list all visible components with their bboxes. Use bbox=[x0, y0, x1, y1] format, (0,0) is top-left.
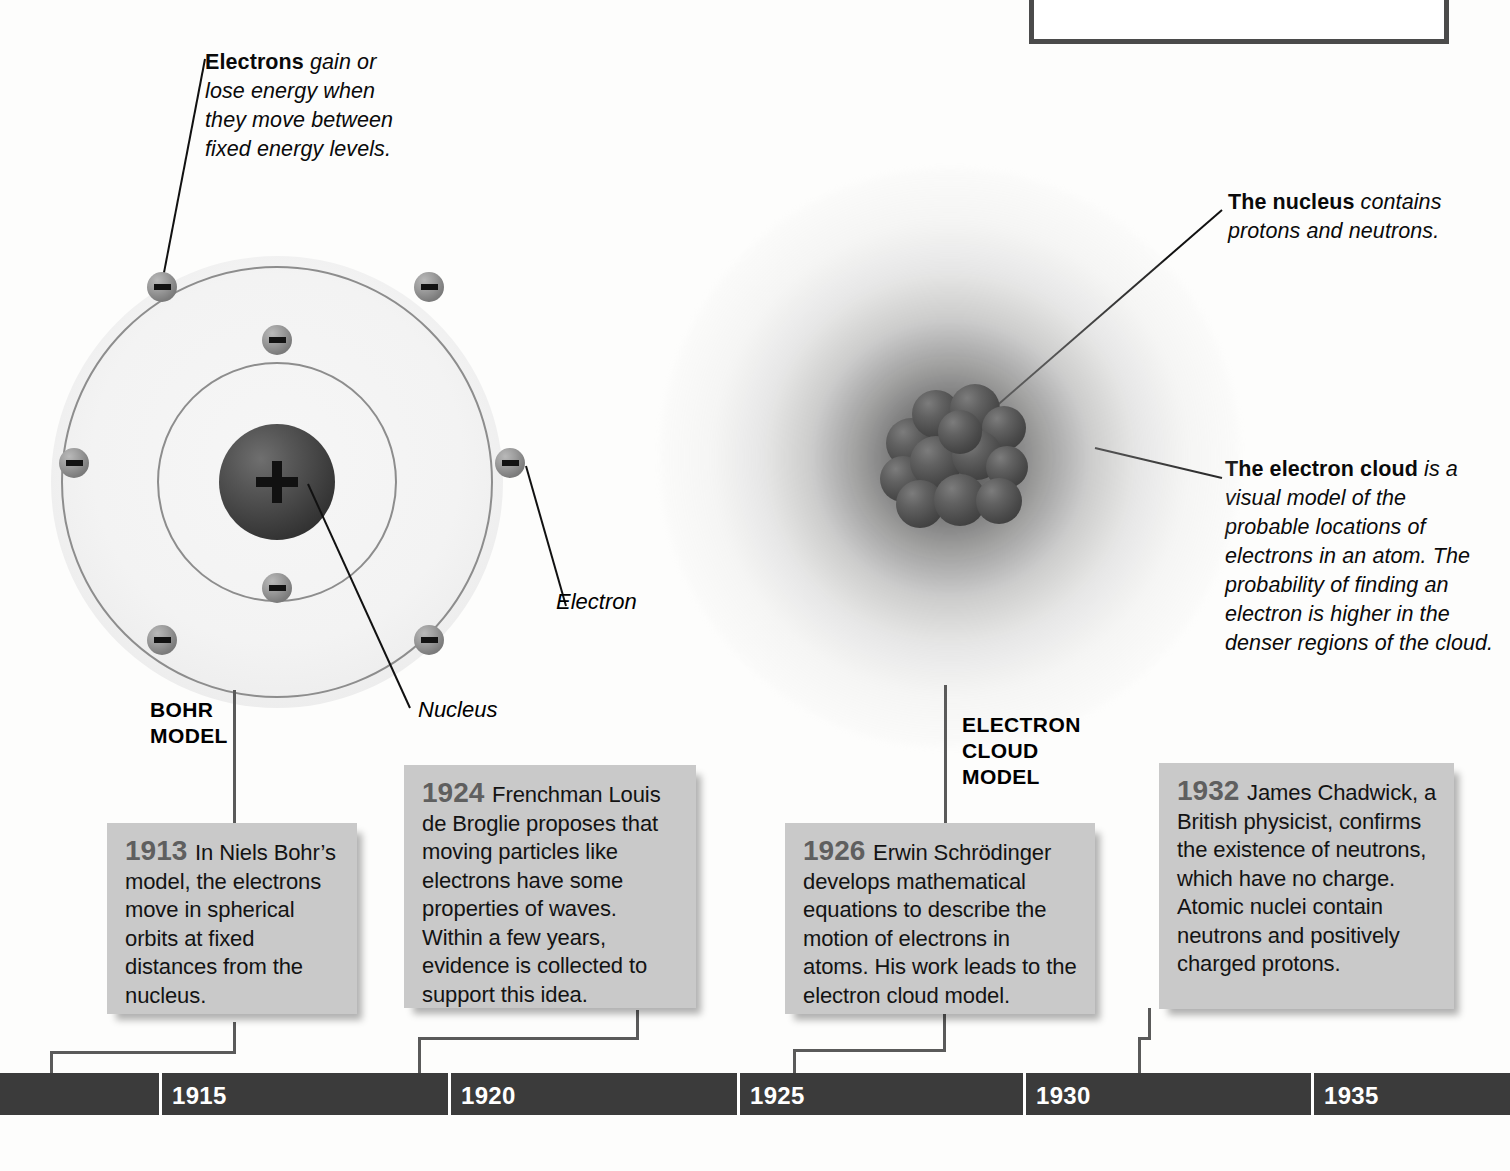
electron-outer-top-right bbox=[414, 272, 444, 302]
nucleon bbox=[976, 478, 1022, 524]
electron-cloud-model-name: ELECTRON CLOUD MODEL bbox=[962, 712, 1122, 790]
electron-cloud-model-atom bbox=[660, 168, 1240, 748]
electron-outer-bottom-left bbox=[147, 625, 177, 655]
callout-electrons-energy: Electrons gain or lose energy when they … bbox=[205, 48, 420, 164]
cloud-model-name-line1: ELECTRON bbox=[962, 712, 1122, 738]
bohr-nucleus-label: Nucleus bbox=[418, 697, 497, 723]
electron-inner-top bbox=[262, 325, 292, 355]
positive-charge-icon bbox=[256, 461, 298, 503]
connector-1926-drop bbox=[943, 1010, 946, 1052]
nucleon bbox=[938, 410, 982, 454]
connector-1913-horizontal bbox=[50, 1051, 236, 1054]
event-year-1926: 1926 bbox=[803, 835, 873, 866]
leader-line-bohr-nucleus bbox=[300, 480, 430, 715]
connector-1924-horizontal bbox=[418, 1037, 639, 1040]
bohr-model-atom bbox=[43, 248, 543, 708]
timeline-year-1920: 1920 bbox=[461, 1082, 516, 1110]
callout-nucleus-lead: The nucleus bbox=[1228, 190, 1355, 214]
event-box-1932: 1932 James Chadwick, a British physicist… bbox=[1159, 763, 1454, 1009]
electron-inner-bottom bbox=[262, 573, 292, 603]
timeline-bar: 1915 1920 1925 1930 1935 bbox=[0, 1073, 1510, 1115]
timeline-year-1935: 1935 bbox=[1324, 1082, 1379, 1110]
diagram-canvas: Electrons gain or lose energy when they … bbox=[0, 0, 1510, 1171]
cloud-model-name-line2: CLOUD bbox=[962, 738, 1122, 764]
event-box-1924: 1924 Frenchman Louis de Broglie proposes… bbox=[404, 765, 696, 1008]
callout-nucleus: The nucleus contains protons and neutron… bbox=[1228, 188, 1478, 246]
timeline-tick-1935 bbox=[1311, 1073, 1314, 1115]
event-text-1932: James Chadwick, a British physicist, con… bbox=[1177, 780, 1436, 976]
timeline-tick-1930 bbox=[1023, 1073, 1026, 1115]
connector-1932-drop bbox=[1148, 1008, 1151, 1040]
top-right-partial-box bbox=[1029, 0, 1449, 44]
timeline-year-1915: 1915 bbox=[172, 1082, 227, 1110]
timeline-year-1925: 1925 bbox=[750, 1082, 805, 1110]
connector-1926-to-bar bbox=[793, 1049, 796, 1076]
electron-outer-left bbox=[59, 448, 89, 478]
connector-1932-to-bar bbox=[1138, 1037, 1141, 1076]
timeline-year-1930: 1930 bbox=[1036, 1082, 1091, 1110]
timeline-tick-1920 bbox=[448, 1073, 451, 1115]
event-year-1932: 1932 bbox=[1177, 775, 1247, 806]
event-year-1913: 1913 bbox=[125, 835, 195, 866]
electron-outer-top-left bbox=[147, 272, 177, 302]
event-box-1926: 1926 Erwin Schrödinger develops mathemat… bbox=[785, 823, 1095, 1014]
timeline-tick-1925 bbox=[737, 1073, 740, 1115]
timeline-tick-1915 bbox=[159, 1073, 162, 1115]
callout-electron-cloud: The electron cloud is a visual model of … bbox=[1225, 455, 1495, 658]
connector-1913-drop bbox=[233, 1022, 236, 1054]
connector-1924-to-bar bbox=[418, 1037, 421, 1076]
callout-electron-cloud-lead: The electron cloud bbox=[1225, 457, 1418, 481]
cloud-model-name-line3: MODEL bbox=[962, 764, 1122, 790]
connector-1924-drop bbox=[636, 1010, 639, 1040]
event-box-1913: 1913 In Niels Bohr’s model, the electron… bbox=[107, 823, 357, 1014]
connector-1926-horizontal bbox=[793, 1049, 946, 1052]
event-year-1924: 1924 bbox=[422, 777, 492, 808]
cloud-nucleus-cluster bbox=[878, 384, 1028, 532]
callout-electron-cloud-rest: is a visual model of the probable locati… bbox=[1225, 457, 1493, 655]
event-text-1924: Frenchman Louis de Broglie proposes that… bbox=[422, 782, 661, 1007]
bohr-electron-label: Electron bbox=[556, 589, 637, 615]
